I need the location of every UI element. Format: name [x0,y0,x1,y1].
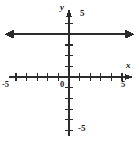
line-arrowhead-right [125,30,135,39]
origin-label: 0 [60,80,64,89]
x-axis-max-tick-label: 5 [121,80,125,89]
y-axis-max-tick-label: 5 [80,9,85,18]
x-axis-group [9,73,133,81]
y-axis-group [65,9,73,136]
line-arrowhead-left [4,30,14,39]
y-axis-arrowhead-up [66,9,72,17]
y-axis-label: y [60,3,64,12]
x-axis-arrowhead-right [125,74,133,80]
graph-canvas: y x 5 -5 -5 5 0 [0,0,139,141]
x-axis-label: x [126,61,131,70]
coordinate-plane-svg [0,0,139,141]
x-axis-min-tick-label: -5 [2,80,9,89]
y-axis-min-tick-label: -5 [78,124,86,133]
